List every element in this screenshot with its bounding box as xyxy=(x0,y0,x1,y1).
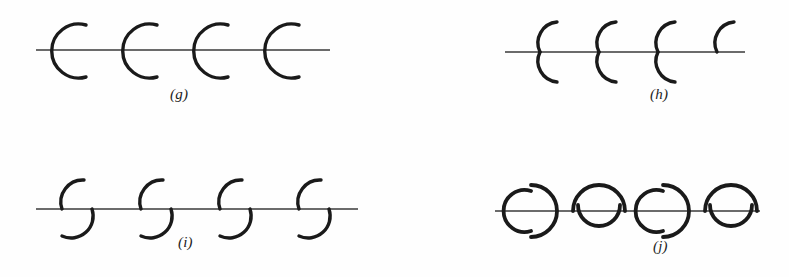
panel-j-caption: (j) xyxy=(653,238,668,255)
figure-drawing xyxy=(0,0,789,277)
figure-root: (g) (h) (i) (j) xyxy=(0,0,789,277)
panel-i-caption: (i) xyxy=(178,234,193,251)
panel-h-caption: (h) xyxy=(650,86,668,103)
panel-g-caption: (g) xyxy=(170,86,188,103)
